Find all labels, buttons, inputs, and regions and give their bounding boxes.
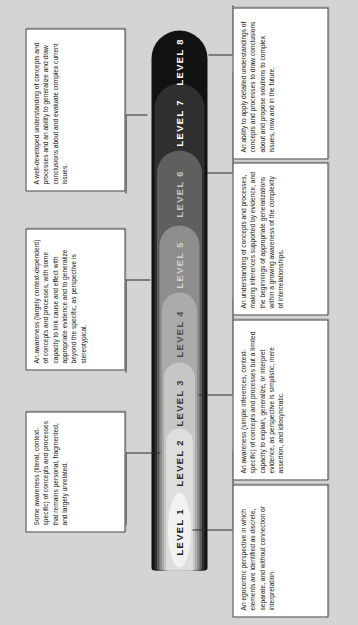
- description-box-left-1[interactable]: A well-developed understanding of concep…: [25, 28, 125, 191]
- connector-tick-right-3: [198, 394, 232, 395]
- connector-tick-right-4: [192, 529, 232, 530]
- level-label-6: LEVEL 6: [174, 170, 184, 217]
- connector-tick-left-3: [125, 452, 160, 453]
- level-label-4: LEVEL 4: [174, 310, 184, 357]
- description-box-left-2[interactable]: An awareness (largely context-dependent)…: [25, 228, 125, 370]
- description-text: An ability to apply detailed understandi…: [238, 14, 275, 152]
- description-text: A well-developed understanding of concep…: [31, 35, 68, 184]
- description-text: An understanding of concepts and process…: [238, 169, 285, 308]
- description-text: An awareness (simple inferences, context…: [238, 326, 285, 473]
- connector-tick-right-2: [206, 172, 232, 173]
- connector-tick-left-2: [125, 279, 150, 280]
- description-text: An awareness (largely context-dependent)…: [31, 235, 87, 363]
- connector-tick-left-1: [125, 114, 147, 115]
- description-box-right-4[interactable]: An egocentric perspective in which eleme…: [232, 484, 328, 617]
- level-label-7: LEVEL 7: [174, 99, 184, 146]
- level-label-5: LEVEL 5: [174, 241, 184, 288]
- description-text: An egocentric perspective in which eleme…: [238, 491, 275, 610]
- description-box-left-3[interactable]: Some awareness (literal, context-specifi…: [25, 411, 125, 532]
- description-text: Some awareness (literal, context-specifi…: [31, 418, 68, 525]
- description-box-right-2[interactable]: An understanding of concepts and process…: [232, 162, 328, 315]
- level-label-1: LEVEL 1: [174, 508, 184, 555]
- description-box-right-3[interactable]: An awareness (simple inferences, context…: [232, 319, 328, 480]
- level-label-8: LEVEL 8: [174, 38, 184, 85]
- connector-tick-right-1: [208, 54, 232, 55]
- diagram-stage: Progress Map for Science Learning LEVEL …: [0, 0, 358, 625]
- level-label-2: LEVEL 2: [174, 439, 184, 486]
- level-label-3: LEVEL 3: [174, 379, 184, 426]
- description-box-right-1[interactable]: An ability to apply detailed understandi…: [232, 7, 328, 159]
